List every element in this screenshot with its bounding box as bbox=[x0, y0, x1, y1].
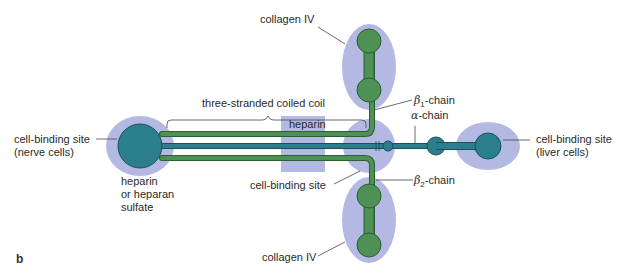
nerve-binding-globule bbox=[118, 124, 162, 168]
alpha-small-globule bbox=[383, 141, 393, 151]
label-liver-binding: cell-binding site (liver cells) bbox=[536, 133, 612, 159]
collagen-bottom-globule-1 bbox=[357, 184, 381, 208]
collagen-bottom-globule-2 bbox=[357, 233, 381, 257]
label-coiled-coil: three-stranded coiled coil bbox=[202, 97, 325, 110]
label-center-binding: cell-binding site bbox=[250, 179, 326, 192]
label-nerve-binding: cell-binding site (nerve cells) bbox=[14, 133, 90, 159]
label-alpha-chain: α-chain bbox=[411, 109, 448, 122]
leader-collagen-top bbox=[318, 27, 345, 44]
collagen-top-globule-1 bbox=[357, 29, 381, 53]
label-beta2-chain: β2-chain bbox=[414, 174, 455, 191]
panel-label: b bbox=[16, 252, 23, 266]
label-heparan-sulfate: heparin or heparan sulfate bbox=[121, 175, 174, 214]
leader-center-binding bbox=[334, 171, 360, 184]
coiled-coil-bracket bbox=[167, 116, 366, 128]
beta2-chain bbox=[162, 158, 372, 245]
label-collagen-top: collagen IV bbox=[260, 13, 314, 26]
collagen-top-globule-2 bbox=[357, 78, 381, 102]
liver-binding-globule bbox=[475, 133, 501, 159]
label-heparin-box: heparin bbox=[289, 118, 326, 131]
label-collagen-bottom: collagen IV bbox=[262, 251, 316, 264]
leader-collagen-bottom bbox=[318, 242, 345, 256]
